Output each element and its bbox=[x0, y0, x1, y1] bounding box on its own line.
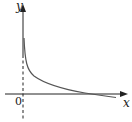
y-axis-label: y bbox=[15, 0, 23, 13]
function-graph: y x 0 bbox=[0, 0, 132, 122]
function-curve bbox=[24, 38, 116, 98]
x-axis-label: x bbox=[123, 96, 130, 110]
origin-label: 0 bbox=[15, 95, 22, 108]
